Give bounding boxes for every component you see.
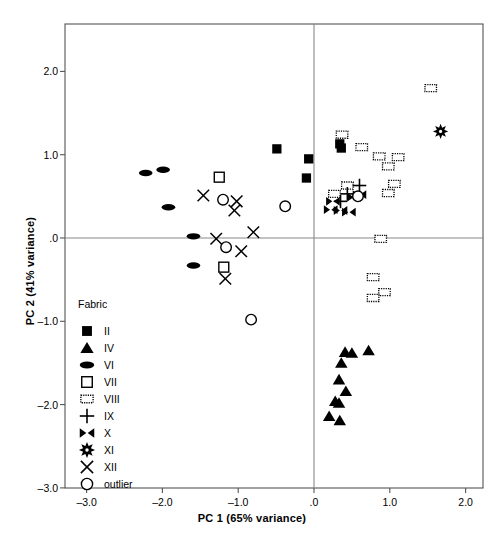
series-outlier: [218, 191, 363, 325]
data-point: [383, 189, 395, 196]
filled-ellipse-icon: [78, 356, 100, 373]
filled-square-icon: [78, 322, 100, 339]
legend-item-label: VIII: [104, 393, 120, 405]
data-point: [187, 262, 201, 268]
y-tick-label: .0: [22, 232, 58, 244]
legend-title: Fabric: [78, 298, 107, 310]
filled-triangle-glyph: [80, 342, 93, 353]
legend-item-label: XI: [104, 444, 114, 456]
x-axis-title: PC 1 (65% variance): [0, 512, 504, 524]
data-point: [302, 173, 311, 182]
bowtie-glyph: [80, 428, 94, 437]
data-point: [353, 191, 364, 202]
plus-icon: [78, 407, 100, 424]
dotted-square-icon: [78, 390, 100, 407]
y-tick-label: 2.0: [22, 65, 58, 77]
series-ii: [272, 139, 346, 182]
legend-item-ii[interactable]: II: [78, 322, 110, 339]
data-point: [356, 144, 368, 151]
legend-item-label: outlier: [104, 478, 133, 490]
filled-square-glyph: [82, 326, 92, 336]
data-point: [221, 242, 232, 253]
legend-item-label: VII: [104, 376, 117, 388]
data-point: [235, 246, 247, 258]
data-point: [337, 143, 346, 152]
x-tick-label: –3.0: [76, 496, 96, 508]
legend-item-viii[interactable]: VIII: [78, 390, 120, 407]
legend-item-label: X: [104, 427, 111, 439]
data-point: [229, 205, 241, 217]
data-point: [219, 262, 229, 272]
data-point: [367, 274, 379, 281]
open-circle-icon: [78, 475, 100, 492]
cross-glyph: [81, 461, 93, 473]
data-point: [334, 415, 346, 426]
data-point: [379, 289, 391, 296]
data-point: [139, 170, 153, 176]
legend-item-vi[interactable]: VI: [78, 356, 114, 373]
open-square-icon: [78, 373, 100, 390]
data-point: [248, 226, 260, 238]
data-point: [323, 411, 335, 422]
data-point: [367, 294, 379, 301]
plus-glyph: [80, 409, 94, 423]
legend-item-ix[interactable]: IX: [78, 407, 114, 424]
plot-canvas: [0, 0, 504, 547]
data-point: [389, 180, 401, 187]
open-circle-glyph: [81, 478, 92, 489]
pca-scatter-chart: PC 1 (65% variance) PC 2 (41% variance) …: [0, 0, 504, 547]
legend-item-label: VI: [104, 359, 114, 371]
data-point: [218, 194, 229, 205]
series-xi: [433, 124, 448, 139]
data-point: [231, 196, 243, 208]
y-axis-title: PC 2 (41% variance): [24, 181, 36, 361]
series-viii: [329, 85, 437, 302]
series-iv: [323, 345, 375, 426]
legend-item-xi[interactable]: XI: [78, 441, 114, 458]
data-point: [425, 85, 437, 92]
y-tick-label: –2.0: [22, 399, 58, 411]
data-point: [340, 386, 352, 397]
data-point: [392, 154, 404, 161]
data-point: [187, 233, 201, 239]
x-tick-label: 1.0: [382, 496, 397, 508]
legend-item-outlier[interactable]: outlier: [78, 475, 133, 492]
series-vi: [139, 166, 200, 268]
data-point: [198, 190, 210, 202]
data-point: [272, 144, 281, 153]
star-icon: [78, 441, 100, 458]
y-tick-label: 1.0: [22, 149, 58, 161]
data-point: [156, 166, 170, 172]
data-point: [362, 345, 374, 356]
legend-item-vii[interactable]: VII: [78, 373, 117, 390]
legend-item-label: IV: [104, 342, 114, 354]
cross-icon: [78, 458, 100, 475]
x-tick-label: .0: [310, 496, 319, 508]
data-point: [333, 374, 345, 385]
data-point: [214, 172, 224, 182]
filled-ellipse-glyph: [80, 362, 94, 369]
x-tick-label: –1.0: [228, 496, 248, 508]
data-point: [335, 357, 347, 368]
filled-triangle-icon: [78, 339, 100, 356]
legend-item-label: IX: [104, 410, 114, 422]
x-tick-label: 2.0: [458, 496, 473, 508]
legend-item-x[interactable]: X: [78, 424, 111, 441]
data-point: [336, 131, 348, 138]
data-point: [373, 153, 385, 160]
data-point-layer: [139, 85, 448, 426]
legend-item-label: XII: [104, 461, 117, 473]
data-point: [329, 190, 341, 197]
y-tick-label: –3.0: [22, 482, 58, 494]
legend-item-iv[interactable]: IV: [78, 339, 114, 356]
y-tick-label: –1.0: [22, 315, 58, 327]
data-point: [246, 314, 257, 325]
x-tick-label: –2.0: [152, 496, 172, 508]
open-square-glyph: [82, 377, 93, 388]
series-vii: [214, 172, 228, 272]
plot-frame: [65, 24, 483, 488]
data-point: [210, 233, 222, 245]
data-point: [280, 201, 291, 212]
legend-item-xii[interactable]: XII: [78, 458, 117, 475]
dotted-square-glyph: [81, 395, 93, 402]
